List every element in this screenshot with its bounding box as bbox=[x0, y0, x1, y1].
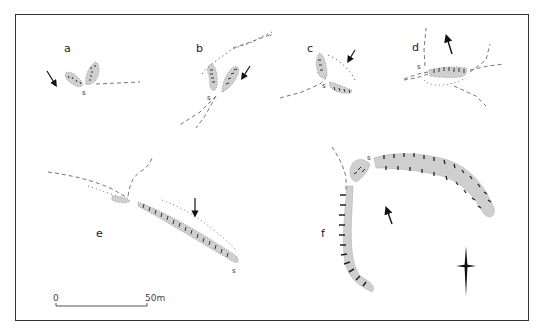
north-arrow-icon bbox=[456, 246, 476, 296]
panel-c-marker: s bbox=[322, 83, 326, 90]
panel-label-d: d bbox=[412, 42, 419, 53]
panel-e-marker: s bbox=[232, 268, 236, 275]
flow-arrow-icon bbox=[387, 210, 392, 224]
panel-b-marker: s bbox=[207, 95, 211, 102]
panel-f-drawing bbox=[332, 147, 494, 292]
scale-bar bbox=[56, 303, 147, 306]
panel-a-marker: s bbox=[82, 90, 86, 97]
scale-end-label: 50m bbox=[145, 294, 165, 303]
flow-arrow-icon bbox=[243, 66, 250, 77]
panel-e-drawing bbox=[48, 158, 238, 263]
flow-arrow-icon bbox=[349, 50, 355, 60]
panel-label-f: f bbox=[321, 228, 325, 239]
panel-f-marker: s bbox=[367, 155, 371, 162]
diagram-canvas bbox=[0, 0, 542, 332]
scale-start-label: 0 bbox=[53, 294, 59, 303]
panel-c-drawing bbox=[280, 50, 355, 98]
panel-d-marker: s bbox=[417, 64, 421, 71]
flow-arrow-icon bbox=[47, 71, 55, 84]
panel-b-drawing bbox=[178, 32, 272, 128]
flow-arrow-icon bbox=[447, 38, 452, 54]
panel-label-c: c bbox=[307, 43, 313, 54]
panel-label-e: e bbox=[96, 228, 103, 239]
panel-label-a: a bbox=[64, 43, 71, 54]
panel-label-b: b bbox=[196, 43, 203, 54]
panel-a-drawing bbox=[47, 62, 140, 87]
